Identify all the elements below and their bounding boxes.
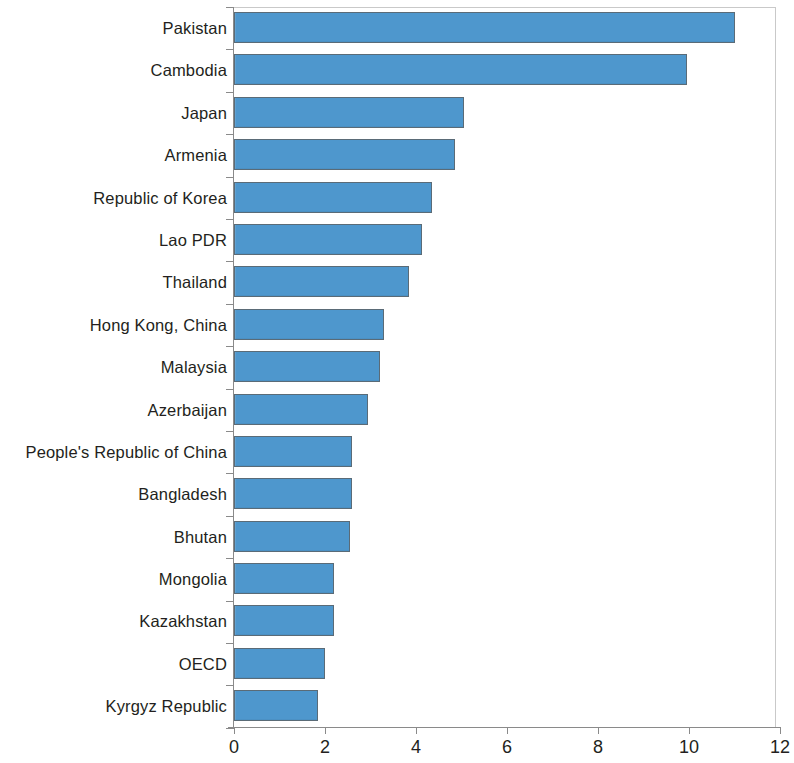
category-label: Lao PDR [159, 219, 227, 261]
bar-row: Bangladesh [0, 473, 786, 515]
y-axis-tick [226, 7, 234, 8]
x-axis-tick-label: 2 [295, 737, 355, 758]
bar [234, 351, 380, 382]
x-axis-tick [416, 727, 417, 734]
category-label: Pakistan [163, 7, 228, 49]
y-axis-tick [226, 346, 234, 347]
category-label: Japan [181, 92, 227, 134]
bar-row: Kazakhstan [0, 600, 786, 642]
bar [234, 12, 735, 43]
bar [234, 97, 464, 128]
bar-row: Mongolia [0, 558, 786, 600]
bar-row: Malaysia [0, 346, 786, 388]
y-axis-tick [226, 134, 234, 135]
bar [234, 54, 687, 85]
bar-rows: PakistanCambodiaJapanArmeniaRepublic of … [0, 7, 786, 728]
x-axis-tick [598, 727, 599, 734]
bar [234, 224, 422, 255]
bar-row: Republic of Korea [0, 177, 786, 219]
y-axis-tick [226, 177, 234, 178]
y-axis-tick [226, 431, 234, 432]
category-label: People's Republic of China [25, 431, 227, 473]
x-axis-tick-label: 12 [750, 737, 794, 758]
x-axis-tick-label: 0 [204, 737, 264, 758]
category-label: Azerbaijan [148, 389, 227, 431]
y-axis-tick [226, 516, 234, 517]
category-label: OECD [179, 643, 227, 685]
category-label: Thailand [163, 261, 228, 303]
bar-row: Azerbaijan [0, 389, 786, 431]
x-axis-tick [507, 727, 508, 734]
bar [234, 182, 432, 213]
y-axis-tick [226, 685, 234, 686]
category-label: Cambodia [151, 49, 227, 91]
bar-row: Bhutan [0, 516, 786, 558]
bar [234, 690, 318, 721]
category-label: Bhutan [174, 516, 227, 558]
category-label: Republic of Korea [93, 177, 227, 219]
x-axis-tick [689, 727, 690, 734]
bar-row: Cambodia [0, 49, 786, 91]
x-axis-tick-label: 4 [386, 737, 446, 758]
bar [234, 648, 325, 679]
category-label: Bangladesh [138, 473, 227, 515]
y-axis-tick [226, 643, 234, 644]
x-axis-tick-label: 10 [659, 737, 719, 758]
category-label: Hong Kong, China [90, 304, 227, 346]
category-label: Kyrgyz Republic [106, 685, 227, 727]
y-axis-tick [226, 49, 234, 50]
x-axis-tick [325, 727, 326, 734]
bar-row: OECD [0, 643, 786, 685]
bar-row: Thailand [0, 261, 786, 303]
bar-row: Armenia [0, 134, 786, 176]
y-axis-tick [226, 601, 234, 602]
y-axis-tick [226, 389, 234, 390]
bar [234, 605, 334, 636]
y-axis-tick [226, 558, 234, 559]
bar [234, 266, 409, 297]
bar [234, 436, 352, 467]
category-label: Armenia [165, 134, 228, 176]
bar-row: Lao PDR [0, 219, 786, 261]
bar-row: People's Republic of China [0, 431, 786, 473]
x-axis-tick-label: 6 [477, 737, 537, 758]
y-axis-tick [226, 219, 234, 220]
bar-row: Hong Kong, China [0, 304, 786, 346]
bar [234, 309, 384, 340]
y-axis-tick [226, 92, 234, 93]
x-axis-tick-label: 8 [568, 737, 628, 758]
bar [234, 394, 368, 425]
y-axis-tick [226, 728, 234, 729]
bar-row: Pakistan [0, 7, 786, 49]
bar [234, 521, 350, 552]
x-axis-tick [234, 727, 235, 734]
category-label: Kazakhstan [139, 600, 227, 642]
category-label: Malaysia [161, 346, 227, 388]
y-axis-tick [226, 473, 234, 474]
bar [234, 478, 352, 509]
category-label: Mongolia [159, 558, 227, 600]
x-axis-tick [780, 727, 781, 734]
y-axis-tick [226, 304, 234, 305]
bar-row: Japan [0, 92, 786, 134]
y-axis-tick [226, 261, 234, 262]
bar [234, 563, 334, 594]
bar-row: Kyrgyz Republic [0, 685, 786, 727]
bar [234, 139, 455, 170]
